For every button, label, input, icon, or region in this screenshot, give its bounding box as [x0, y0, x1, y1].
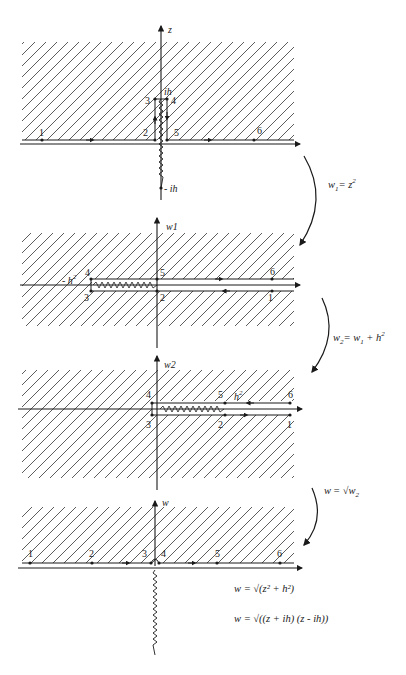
- point-label-1: 1: [268, 292, 273, 303]
- point-label-1: 1: [287, 419, 292, 430]
- point-label-4: 4: [85, 267, 90, 278]
- point-label-6: 6: [277, 548, 282, 559]
- label-ih: ih: [164, 86, 172, 97]
- axis-label-w: w: [162, 497, 169, 508]
- point-label-6: 6: [270, 266, 275, 277]
- branch-cut: [153, 570, 157, 655]
- label-neg-ih: - ih: [164, 183, 178, 194]
- point-label-5: 5: [174, 127, 179, 138]
- point-label-3: 3: [145, 95, 150, 106]
- point-label-5: 5: [218, 389, 223, 400]
- map-eq-2: w2= w1 + h2: [333, 330, 385, 346]
- panel-w1: w1 4 3 5 2 6 1 - h2: [20, 218, 300, 348]
- point-label-3: 3: [84, 292, 89, 303]
- point-label-4: 4: [146, 389, 151, 400]
- panel-z: z 1 2 3 4 5 6 ih - ih: [20, 24, 300, 200]
- hatched-region: [22, 42, 294, 140]
- point-label-6: 6: [288, 389, 293, 400]
- point-label-6: 6: [257, 125, 262, 136]
- map-eq-1: w1= z2: [328, 177, 356, 193]
- point-label-5: 5: [215, 548, 220, 559]
- point-label-2: 2: [89, 548, 94, 559]
- panel-w: w 1 2 3 4 5 6: [18, 497, 302, 655]
- point-label-2: 2: [218, 419, 223, 430]
- point-label-4: 4: [161, 548, 166, 559]
- axis-label-w2: w2: [164, 359, 176, 370]
- map-arrow-1: [300, 156, 316, 245]
- point-label-2: 2: [160, 292, 165, 303]
- point-label-5: 5: [160, 267, 165, 278]
- conformal-map-diagram: z 1 2 3 4 5 6 ih - ih w1= z2: [0, 0, 406, 675]
- panel-w2: w2 4 3 5 2 6 1 h2: [18, 356, 302, 490]
- point-label-1: 1: [28, 548, 33, 559]
- map-arrow-2: [312, 298, 329, 372]
- axis-label-z: z: [167, 24, 172, 35]
- final-equation-2: w = √((z + ih) (z - ih)): [234, 613, 329, 625]
- axis-label-w1: w1: [166, 221, 178, 232]
- hatched-region: [22, 370, 294, 478]
- point-label-3: 3: [142, 548, 147, 559]
- hatched-region: [22, 507, 294, 563]
- point-label-3: 3: [146, 419, 151, 430]
- point-label-2: 2: [143, 127, 148, 138]
- map-eq-3: w= √w2: [324, 485, 360, 499]
- final-equation-1: w = √(z² + h²): [234, 583, 295, 595]
- point-label-1: 1: [39, 127, 44, 138]
- map-arrow-3: [304, 488, 317, 545]
